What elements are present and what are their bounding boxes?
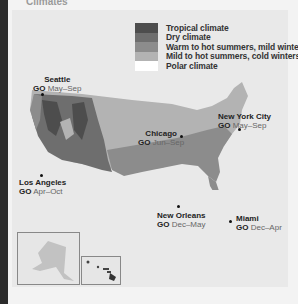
legend-item-warm: Warm to hot summers, mild winters — [135, 42, 298, 52]
legend-label: Dry climate — [166, 32, 211, 42]
go-label: GO — [138, 138, 150, 147]
city-name: New Orleans — [157, 211, 205, 220]
months: May–Sep — [48, 84, 82, 93]
alaska-inset — [17, 232, 80, 285]
page-edge-bar — [0, 0, 8, 304]
city-label-los-angeles: Los Angeles GO Apr–Oct — [19, 178, 66, 196]
city-dot — [41, 93, 44, 96]
months: Jun–Sep — [153, 138, 185, 147]
title-partial: Climates — [26, 0, 68, 7]
city-name: Seattle — [33, 75, 81, 84]
city-dot — [229, 220, 232, 223]
go-label: GO — [19, 187, 31, 196]
months: Dec–Apr — [251, 223, 282, 232]
months: May–Sep — [233, 121, 267, 130]
go-label: GO — [157, 220, 169, 229]
city-label-miami: Miami GO Dec–Apr — [236, 214, 282, 232]
legend-item-dry: Dry climate — [135, 33, 298, 43]
city-name: Chicago — [138, 129, 184, 138]
months: Dec–May — [172, 220, 206, 229]
city-name: Los Angeles — [19, 178, 66, 187]
city-label-new-orleans: New Orleans GO Dec–May — [157, 211, 205, 229]
go-label: GO — [218, 121, 230, 130]
legend-swatch — [135, 33, 158, 43]
legend-item-tropical: Tropical climate — [135, 23, 298, 33]
legend-swatch — [135, 42, 158, 52]
city-label-chicago: Chicago GO Jun–Sep — [138, 129, 184, 147]
city-label-seattle: Seattle GO May–Sep — [33, 75, 81, 93]
legend-label: Warm to hot summers, mild winters — [166, 42, 298, 52]
city-label-new-york: New York City GO May–Sep — [218, 112, 271, 130]
city-dot — [177, 205, 180, 208]
city-name: New York City — [218, 112, 271, 121]
city-dot — [40, 174, 43, 177]
city-name: Miami — [236, 214, 282, 223]
legend-swatch — [135, 23, 158, 33]
months: Apr–Oct — [33, 187, 62, 196]
legend-label: Tropical climate — [166, 23, 229, 33]
go-label: GO — [236, 223, 248, 232]
hawaii-inset — [81, 256, 121, 285]
hawaii-shape — [82, 257, 120, 284]
alaska-shape — [18, 233, 79, 284]
go-label: GO — [33, 84, 45, 93]
